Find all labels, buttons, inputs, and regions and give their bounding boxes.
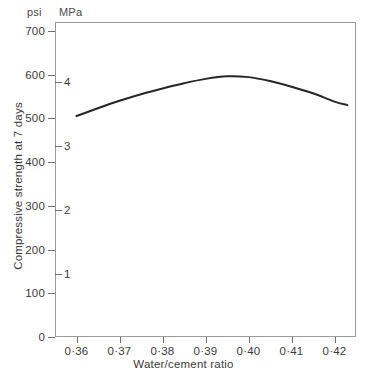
y-tick-psi — [48, 206, 55, 207]
y-tick-psi — [48, 293, 55, 294]
y-tick-label-psi: 700 — [25, 25, 45, 37]
y-tick-label-psi: 200 — [25, 244, 45, 256]
x-axis-title: Water/cement ratio — [0, 358, 367, 370]
y-tick-label-psi: 600 — [25, 69, 45, 81]
x-tick — [77, 337, 78, 343]
y-tick-psi — [48, 31, 55, 32]
y-tick-psi — [48, 75, 55, 76]
y-tick-label-psi: 100 — [25, 287, 45, 299]
x-tick-label: 0·42 — [323, 345, 347, 357]
x-tick-label: 0·38 — [151, 345, 175, 357]
x-tick-label: 0·39 — [194, 345, 218, 357]
y-tick-mpa — [55, 274, 62, 275]
x-tick — [249, 337, 250, 343]
y-tick-psi — [48, 337, 55, 338]
y-axis-title: Compressive strength at 7 days — [12, 76, 24, 296]
y-tick-label-psi: 400 — [25, 156, 45, 168]
x-tick-label: 0·40 — [237, 345, 261, 357]
y-tick-label-psi: 0 — [38, 331, 45, 343]
x-tick — [206, 337, 207, 343]
x-tick-label: 0·37 — [108, 345, 132, 357]
x-tick — [163, 337, 164, 343]
x-tick — [120, 337, 121, 343]
x-tick — [335, 337, 336, 343]
y-tick-mpa — [55, 210, 62, 211]
y-tick-mpa — [55, 146, 62, 147]
x-tick-label: 0·41 — [280, 345, 304, 357]
y-tick-psi — [48, 162, 55, 163]
y-tick-label-mpa: 2 — [64, 204, 70, 216]
secondary-unit-label: MPa — [59, 6, 82, 18]
primary-unit-label: psi — [27, 6, 42, 18]
x-tick — [292, 337, 293, 343]
y-tick-psi — [48, 250, 55, 251]
y-tick-label-psi: 500 — [25, 112, 45, 124]
y-tick-label-mpa: 1 — [64, 268, 70, 280]
y-tick-mpa — [55, 82, 62, 83]
chart-figure: psi MPa 0100200300400500600700 1234 0·36… — [0, 0, 367, 376]
x-tick-label: 0·36 — [65, 345, 89, 357]
y-tick-label-mpa: 3 — [64, 140, 70, 152]
y-tick-label-psi: 300 — [25, 200, 45, 212]
y-tick-label-mpa: 4 — [64, 76, 70, 88]
plot-area — [55, 22, 356, 337]
y-tick-psi — [48, 118, 55, 119]
